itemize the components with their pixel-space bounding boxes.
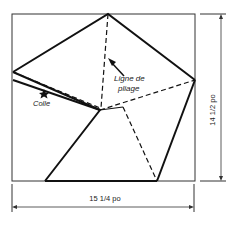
- width-arrow-right: [189, 205, 194, 209]
- shape-left-inner-edge: [13, 72, 100, 181]
- width-dimension-label: 15 1/4 po: [89, 194, 120, 203]
- glue-label: Colle: [33, 99, 50, 108]
- shape-right-edge: [157, 80, 195, 181]
- height-arrow-bottom: [219, 176, 223, 181]
- height-dimension-label: 14 1/2 po: [208, 94, 217, 125]
- glue-flap-edge: [13, 80, 100, 110]
- fold-line-vertical: [101, 14, 108, 108]
- width-arrow-left: [12, 205, 17, 209]
- fold-line-bottom: [123, 107, 157, 181]
- fold-line-label-1: Ligne de: [114, 74, 145, 83]
- fold-line-arrowhead: [108, 58, 116, 66]
- outer-square: [12, 14, 195, 181]
- fold-line-right: [100, 80, 195, 110]
- fold-line-label-2: pliage: [117, 84, 140, 93]
- height-arrow-top: [219, 14, 223, 19]
- folding-pattern-diagram: Ligne de pliage Colle 14 1/2 po 15 1/4 p…: [0, 0, 240, 226]
